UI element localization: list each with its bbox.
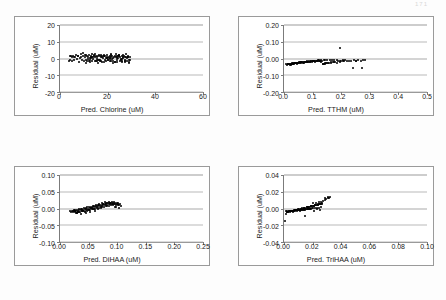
data-point xyxy=(102,203,104,205)
y-tick-mark xyxy=(57,225,60,226)
y-tick-mark xyxy=(281,59,284,60)
x-tick-labels: 0204060 xyxy=(59,93,203,103)
x-tick-labels: 0.000.020.040.060.080.10 xyxy=(283,243,427,253)
data-point xyxy=(312,202,314,204)
x-axis-title: Pred. DiHAA (uM) xyxy=(15,255,209,264)
x-tick-label: 0.08 xyxy=(391,243,405,250)
data-point xyxy=(313,60,315,62)
data-point xyxy=(93,55,95,57)
data-point xyxy=(91,207,93,209)
data-point xyxy=(122,57,124,59)
data-point xyxy=(103,61,105,63)
data-point xyxy=(303,207,305,209)
data-point xyxy=(293,62,295,64)
data-point xyxy=(116,57,118,59)
plot-area xyxy=(59,25,203,93)
data-point xyxy=(127,56,129,58)
x-tick-label: 60 xyxy=(199,93,207,100)
y-tick-mark xyxy=(281,225,284,226)
y-tick-label: 0.20 xyxy=(265,22,279,29)
data-point xyxy=(339,47,341,49)
plot-area xyxy=(283,25,427,93)
data-point xyxy=(112,203,114,205)
gridline xyxy=(284,225,427,226)
data-point xyxy=(307,206,309,208)
gridline xyxy=(60,175,203,176)
y-tick-mark xyxy=(281,209,284,210)
y-tick-label: 20 xyxy=(47,22,55,29)
data-point xyxy=(120,205,122,207)
data-point xyxy=(87,58,89,60)
y-tick-label: 0.05 xyxy=(41,189,55,196)
data-point xyxy=(361,67,363,69)
data-point xyxy=(73,59,75,61)
data-point xyxy=(313,210,315,212)
data-point xyxy=(355,60,357,62)
data-point xyxy=(85,54,87,56)
gridline xyxy=(284,175,427,176)
y-tick-label: -10 xyxy=(45,73,55,80)
data-point xyxy=(318,201,320,203)
y-tick-label: 0.02 xyxy=(265,189,279,196)
data-point xyxy=(324,197,326,199)
data-point xyxy=(88,60,90,62)
x-tick-label: 0.05 xyxy=(81,243,95,250)
data-point xyxy=(82,210,84,212)
data-point xyxy=(315,202,317,204)
x-tick-label: 0.02 xyxy=(305,243,319,250)
data-point xyxy=(97,62,99,64)
data-point xyxy=(299,210,301,212)
y-tick-labels: 0.040.020.00-0.02-0.04 xyxy=(251,175,281,243)
data-point xyxy=(304,215,306,217)
data-point xyxy=(295,209,297,211)
data-point xyxy=(110,60,112,62)
chart-panel-tthm: Residual (uM) 0.200.100.00-0.10-0.20 0.0… xyxy=(238,16,434,116)
data-point xyxy=(118,54,120,56)
data-point xyxy=(98,54,100,56)
x-tick-labels: 0.000.050.100.150.200.25 xyxy=(59,243,203,253)
x-tick-label: 0.00 xyxy=(276,243,290,250)
data-point xyxy=(108,201,110,203)
gridline xyxy=(284,25,427,26)
gridline xyxy=(284,75,427,76)
data-point xyxy=(97,208,99,210)
data-point xyxy=(80,53,82,55)
data-point xyxy=(320,201,322,203)
data-point xyxy=(80,213,82,215)
data-point xyxy=(89,211,91,213)
data-point xyxy=(316,208,318,210)
y-tick-label: 10 xyxy=(47,39,55,46)
x-tick-label: 0.3 xyxy=(365,93,375,100)
plot-area xyxy=(283,175,427,243)
y-tick-mark xyxy=(57,59,60,60)
x-tick-label: 0.15 xyxy=(139,243,153,250)
data-point xyxy=(285,213,287,215)
data-point xyxy=(364,59,366,61)
y-tick-label: 0.10 xyxy=(265,39,279,46)
y-tick-labels: 0.200.100.00-0.10-0.20 xyxy=(251,25,281,93)
data-point xyxy=(101,55,103,57)
data-point xyxy=(118,207,120,209)
chart-panel-trihaa: Residual (uM) 0.040.020.00-0.02-0.04 0.0… xyxy=(238,166,434,266)
data-point xyxy=(125,53,127,55)
data-point xyxy=(310,205,312,207)
x-tick-label: 0 xyxy=(57,93,61,100)
y-tick-mark xyxy=(57,25,60,26)
x-tick-label: 0.1 xyxy=(307,93,317,100)
x-tick-label: 0.06 xyxy=(363,243,377,250)
data-point xyxy=(300,208,302,210)
data-point xyxy=(111,201,113,203)
y-tick-label: -0.20 xyxy=(263,90,279,97)
y-tick-label: 0 xyxy=(51,56,55,63)
data-point xyxy=(310,60,312,62)
data-point xyxy=(78,61,80,63)
data-point xyxy=(122,54,124,56)
x-tick-label: 0.5 xyxy=(422,93,432,100)
data-point xyxy=(287,63,289,65)
data-point xyxy=(91,53,93,55)
y-tick-mark xyxy=(281,42,284,43)
y-tick-mark xyxy=(281,75,284,76)
x-axis-title: Pred. Chlorine (uM) xyxy=(15,105,209,114)
x-tick-label: 0.25 xyxy=(196,243,210,250)
x-tick-label: 0.04 xyxy=(334,243,348,250)
